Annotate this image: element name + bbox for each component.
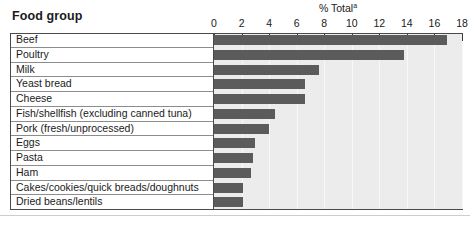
value-bar (214, 50, 404, 60)
chart-row: Beef (10, 33, 463, 48)
value-bar (214, 168, 251, 178)
category-label: Poultry (11, 48, 213, 63)
category-label: Pasta (11, 151, 213, 166)
bar-chart-figure: Food group % Totala 024681012141618 Beef… (0, 0, 470, 228)
chart-row: Pork (fresh/unprocessed) (10, 122, 463, 137)
value-bar (214, 35, 447, 45)
value-bar (214, 138, 255, 148)
chart-row: Pasta (10, 151, 463, 166)
x-axis-tick-label: 6 (294, 17, 300, 29)
value-bar (214, 183, 243, 193)
category-label: Milk (11, 63, 213, 78)
chart-rows: BeefPoultryMilkYeast breadCheeseFish/she… (10, 33, 463, 210)
chart-row: Eggs (10, 136, 463, 151)
category-label: Cheese (11, 92, 213, 107)
category-label: Yeast bread (11, 77, 213, 92)
x-axis-tick-label: 16 (429, 17, 441, 29)
value-bar (214, 109, 275, 119)
category-label: Ham (11, 166, 213, 181)
value-bar (214, 124, 269, 134)
x-axis-tick-label: 10 (346, 17, 358, 29)
chart-row: Cakes/cookies/quick breads/doughnuts (10, 181, 463, 196)
category-label: Fish/shellfish (excluding canned tuna) (11, 107, 213, 122)
category-label: Pork (fresh/unprocessed) (11, 122, 213, 137)
category-label: Beef (11, 33, 213, 48)
value-bar (214, 197, 243, 207)
figure-bottom-rule (0, 215, 470, 216)
value-bar (214, 94, 305, 104)
value-bar (214, 65, 319, 75)
axis-title: % Totala (214, 2, 462, 14)
chart-frame: BeefPoultryMilkYeast breadCheeseFish/she… (10, 33, 463, 210)
axis-title-footnote-marker: a (353, 2, 357, 9)
category-label: Eggs (11, 136, 213, 151)
value-bar (214, 153, 253, 163)
x-axis-tick-label: 12 (373, 17, 385, 29)
chart-row: Dried beans/lentils (10, 195, 463, 210)
category-label: Cakes/cookies/quick breads/doughnuts (11, 181, 213, 196)
chart-row: Poultry (10, 48, 463, 63)
x-axis-tick-label: 14 (401, 17, 413, 29)
x-axis-tick-label: 18 (456, 17, 468, 29)
chart-row: Milk (10, 63, 463, 78)
chart-row: Cheese (10, 92, 463, 107)
x-axis-tick-label: 8 (321, 17, 327, 29)
category-label: Dried beans/lentils (11, 195, 213, 210)
chart-row: Yeast bread (10, 77, 463, 92)
chart-row: Fish/shellfish (excluding canned tuna) (10, 107, 463, 122)
x-axis-tick-label: 4 (266, 17, 272, 29)
x-axis-tick-label: 0 (211, 17, 217, 29)
axis-title-text: % Total (319, 2, 353, 14)
x-axis-tick-label: 2 (239, 17, 245, 29)
chart-row: Ham (10, 166, 463, 181)
value-bar (214, 79, 305, 89)
x-axis-tick-labels: 024681012141618 (0, 17, 470, 32)
